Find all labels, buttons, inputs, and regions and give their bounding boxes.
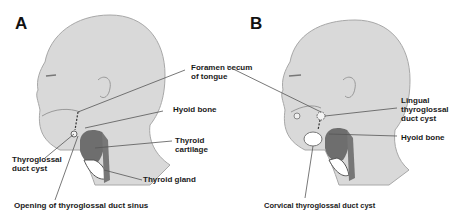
panel-a: A Foramen cecum of tongue Hyoid bone Thy…	[0, 0, 227, 217]
label-hyoid-bone-a: Hyoid bone	[173, 105, 217, 114]
label-opening-sinus: Opening of thyroglossal duct sinus	[14, 201, 148, 210]
panel-label-b: B	[250, 14, 262, 34]
label-hyoid-bone-b: Hyoid bone	[401, 133, 445, 142]
label-cervical-cyst: Corvical thyroglossal duct cyst	[264, 201, 375, 210]
label-thyroglossal-duct-cyst: Thyroglossal duct cyst	[12, 155, 62, 173]
panel-b: B Lingual thyroglossal duct cyst Hyoid b…	[227, 0, 454, 217]
label-lingual-cyst: Lingual thyroglossal duct cyst	[401, 96, 449, 123]
panel-label-a: A	[15, 14, 27, 34]
label-thyroid-gland: Thyroid gland	[143, 175, 196, 184]
label-thyroid-cartilage: Thyroid cartilage	[175, 136, 227, 154]
